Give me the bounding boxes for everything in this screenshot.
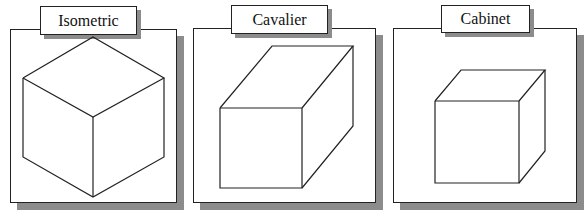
cavalier-side-face [302, 46, 353, 188]
cube-drawings [0, 0, 587, 217]
isometric-top-face [23, 37, 164, 117]
cavalier-front-face [220, 108, 302, 188]
cavalier-top-face [220, 46, 353, 108]
cabinet-side-face [519, 70, 545, 183]
cabinet-front-face [435, 101, 519, 183]
cabinet-top-face [435, 70, 545, 101]
